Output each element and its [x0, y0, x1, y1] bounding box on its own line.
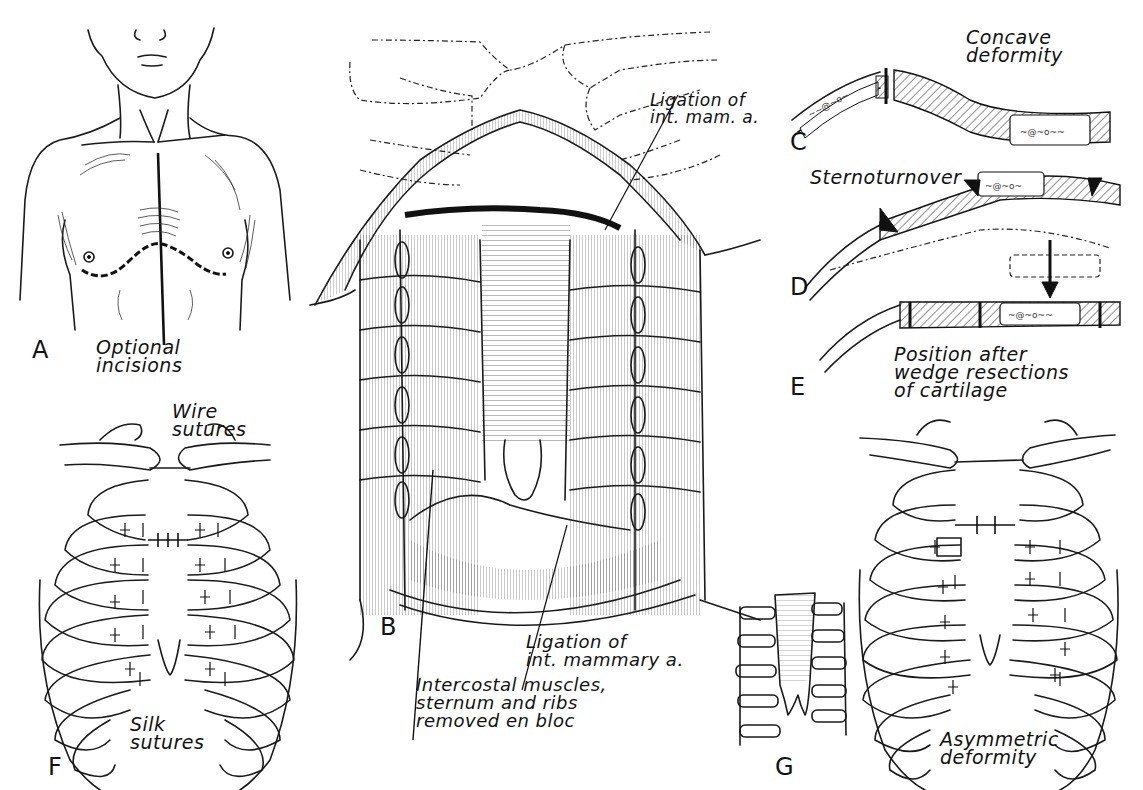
panel-letter-g: G	[775, 755, 794, 779]
panel-letter-b: B	[380, 615, 396, 639]
panel-a-torso-incisions: A Optional incisions	[0, 0, 300, 380]
svg-text:~@~o~: ~@~o~	[985, 181, 1022, 191]
panel-letter-e: E	[790, 375, 805, 399]
silk-suture-marks	[110, 523, 235, 686]
panel-f-rib-cage-sutures: Wire sutures Silk sutures F	[30, 400, 320, 790]
caption-sternoturnover: Sternoturnover	[810, 168, 961, 186]
left-rib-stubs	[736, 607, 780, 745]
callout-en-bloc: Intercostal muscles, sternum and ribs re…	[416, 676, 607, 730]
caption-position-after-wedge-resections: Position after wedge resections of carti…	[894, 345, 1069, 399]
callout-silk-sutures: Silk sutures	[130, 715, 204, 751]
cross-section-drawing: ~~@~o~ ~@~o~~ ~@~o~ ~@~o~~	[780, 0, 1143, 400]
torso-drawing	[0, 0, 300, 380]
panel-letter-d: D	[790, 275, 808, 299]
callout-wire-sutures: Wire sutures	[172, 402, 246, 438]
section-c: ~~@~o~ ~@~o~~	[792, 68, 1110, 145]
panel-b-surgical-view: Ligation of int. mam. a. B Ligation of i…	[300, 0, 790, 740]
asym-wire-suture-marks	[955, 516, 1015, 534]
section-d: ~@~o~	[805, 172, 1120, 300]
panel-letter-a: A	[32, 338, 48, 362]
panel-letter-f: F	[48, 755, 62, 779]
panel-cde-cross-sections: ~~@~o~ ~@~o~~ ~@~o~ ~@~o~~	[780, 0, 1143, 400]
panel-asymmetric-rib-cage: Asymmetric deformity	[855, 410, 1125, 790]
callout-ligation-int-mammary-a: Ligation of int. mammary a.	[526, 633, 684, 669]
callout-ligation-int-mam-a: Ligation of int. mam. a.	[650, 92, 759, 126]
wire-suture-marks	[148, 533, 188, 547]
caption-asymmetric-deformity: Asymmetric deformity	[940, 730, 1059, 766]
caption-concave-deformity: Concave deformity	[966, 28, 1063, 64]
svg-text:~@~o~~: ~@~o~~	[1020, 127, 1065, 137]
right-rib-stubs	[812, 603, 846, 735]
svg-text:~@~o~~: ~@~o~~	[1008, 310, 1053, 320]
panel-g-sternum-block: G	[730, 585, 850, 785]
caption-optional-incisions: Optional incisions	[96, 338, 182, 374]
panel-letter-c: C	[790, 130, 807, 154]
asym-silk-suture-marks	[930, 540, 1070, 694]
